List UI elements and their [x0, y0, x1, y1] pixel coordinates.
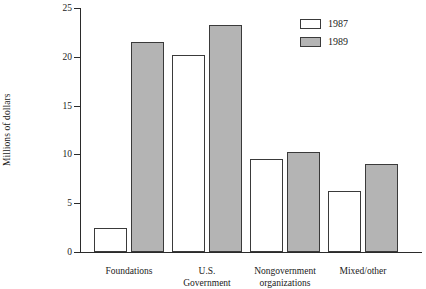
y-axis-tick-label: 10: [50, 149, 72, 159]
legend-label-1989: 1989: [328, 36, 348, 47]
y-axis-tick: [74, 203, 80, 204]
y-axis-tick-label: 0: [50, 247, 72, 257]
y-axis-tick-label: 5: [50, 198, 72, 208]
bar-1987-3: [328, 191, 361, 252]
bar-1989-1: [209, 25, 242, 252]
y-axis-line: [80, 8, 81, 253]
legend-label-1987: 1987: [328, 18, 348, 29]
bar-1989-0: [131, 42, 164, 252]
bar-1987-1: [172, 55, 205, 252]
legend: 1987 1989: [300, 16, 390, 52]
x-axis-line: [80, 252, 422, 253]
bar-1989-2: [287, 152, 320, 252]
y-axis-tick-label: 20: [50, 52, 72, 62]
legend-item-1989: 1989: [300, 34, 390, 49]
bar-1989-3: [365, 164, 398, 252]
y-axis-tick: [74, 106, 80, 107]
bar-1987-0: [94, 228, 127, 252]
y-axis-tick-label: 15: [50, 101, 72, 111]
y-axis-tick-label: 25: [50, 3, 72, 13]
y-axis-tick: [74, 252, 80, 253]
legend-swatch-1987: [300, 19, 321, 29]
y-axis-tick: [74, 154, 80, 155]
legend-swatch-1989: [300, 37, 321, 47]
y-axis-tick-labels: 0510152025: [48, 0, 72, 253]
legend-item-1987: 1987: [300, 16, 390, 31]
y-axis-title: Millions of dollars: [0, 60, 14, 200]
x-axis-category-label: Mixed/other: [308, 266, 418, 278]
y-axis-tick: [74, 57, 80, 58]
bar-1987-2: [250, 159, 283, 252]
y-axis-tick: [74, 8, 80, 9]
